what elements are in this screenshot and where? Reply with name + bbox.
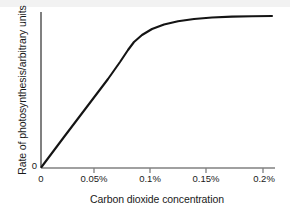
photosynthesis-co2-chart: Rate of photosynthesis/arbitrary units C… [0,0,290,217]
x-tick-label-0: 0 [38,173,43,184]
x-tick-label-1: 0.05% [81,173,108,184]
photosynthesis-rate-curve [42,16,273,167]
x-axis-title: Carbon dioxide concentration [41,193,273,205]
y-tick-label-0: 0 [32,160,37,171]
chart-plot-area [0,0,290,217]
x-tick-label-2: 0.1% [139,173,161,184]
y-axis-title: Rate of photosynthesis/arbitrary units [16,5,28,175]
x-tick-label-3: 0.15% [193,173,220,184]
x-tick-label-4: 0.2% [253,173,275,184]
